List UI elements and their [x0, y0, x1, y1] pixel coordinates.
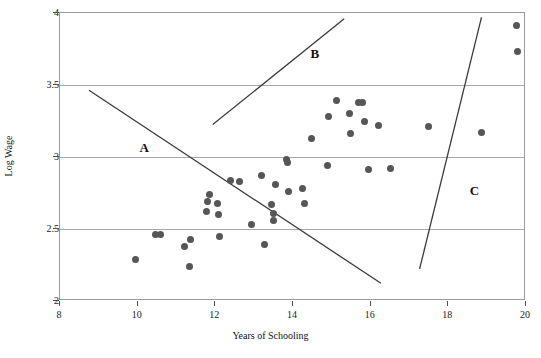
- x-axis-title: Years of Schooling: [0, 330, 541, 341]
- scatter-point: [132, 256, 139, 263]
- trend-lines: [60, 13, 524, 299]
- scatter-point: [216, 233, 223, 240]
- scatter-point: [236, 178, 243, 185]
- x-tick-mark: [59, 301, 60, 306]
- scatter-point: [284, 159, 291, 166]
- scatter-point: [206, 191, 213, 198]
- x-tick-mark: [292, 301, 293, 306]
- y-axis-ticks: 22.533.54: [28, 12, 59, 300]
- gridline-y: [60, 229, 524, 230]
- scatter-point: [387, 165, 394, 172]
- trend-line-b: [213, 19, 344, 125]
- scatter-point: [478, 129, 485, 136]
- scatter-point: [187, 236, 194, 243]
- x-tick-label: 8: [44, 309, 74, 320]
- scatter-point: [248, 221, 255, 228]
- scatter-point: [325, 113, 332, 120]
- scatter-point: [186, 263, 193, 270]
- scatter-point: [181, 243, 188, 250]
- x-tick-label: 10: [122, 309, 152, 320]
- scatter-point: [361, 118, 368, 125]
- scatter-point: [227, 177, 234, 184]
- x-tick-label: 18: [432, 309, 462, 320]
- x-tick-mark: [525, 301, 526, 306]
- trend-label-b: B: [310, 46, 319, 62]
- gridline-y: [60, 157, 524, 158]
- scatter-point: [365, 166, 372, 173]
- trend-line-c: [420, 17, 482, 269]
- x-axis-ticks: 8101214161820: [59, 301, 525, 323]
- scatter-point: [270, 210, 277, 217]
- scatter-point: [346, 110, 353, 117]
- scatter-point: [214, 200, 221, 207]
- scatter-point: [359, 99, 366, 106]
- x-tick-mark: [370, 301, 371, 306]
- scatter-point: [204, 198, 211, 205]
- x-tick-label: 14: [277, 309, 307, 320]
- x-tick-label: 16: [355, 309, 385, 320]
- scatter-point: [513, 22, 520, 29]
- scatter-point: [375, 122, 382, 129]
- scatter-point: [157, 231, 164, 238]
- plot-area: ABC: [59, 12, 525, 300]
- scatter-point: [347, 130, 354, 137]
- x-tick-mark: [137, 301, 138, 306]
- scatter-point: [272, 181, 279, 188]
- trend-label-c: C: [470, 183, 479, 199]
- trend-label-a: A: [140, 140, 149, 156]
- scatter-point: [514, 48, 521, 55]
- x-tick-mark: [447, 301, 448, 306]
- scatter-point: [258, 172, 265, 179]
- x-tick-label: 12: [199, 309, 229, 320]
- scatter-point: [268, 201, 275, 208]
- y-axis-title: Log Wage: [3, 136, 14, 177]
- gridline-y: [60, 85, 524, 86]
- scatter-point: [308, 135, 315, 142]
- scatter-point: [425, 123, 432, 130]
- scatter-point: [285, 188, 292, 195]
- scatter-point: [301, 200, 308, 207]
- chart-figure: Log Wage 22.533.54 ABC 8101214161820 Yea…: [0, 0, 541, 358]
- scatter-point: [324, 162, 331, 169]
- scatter-point: [270, 217, 277, 224]
- scatter-point: [261, 241, 268, 248]
- scatter-point: [333, 97, 340, 104]
- trend-line-a: [89, 90, 381, 283]
- x-tick-label: 20: [510, 309, 540, 320]
- scatter-point: [203, 208, 210, 215]
- x-tick-mark: [214, 301, 215, 306]
- scatter-point: [299, 185, 306, 192]
- scatter-point: [215, 211, 222, 218]
